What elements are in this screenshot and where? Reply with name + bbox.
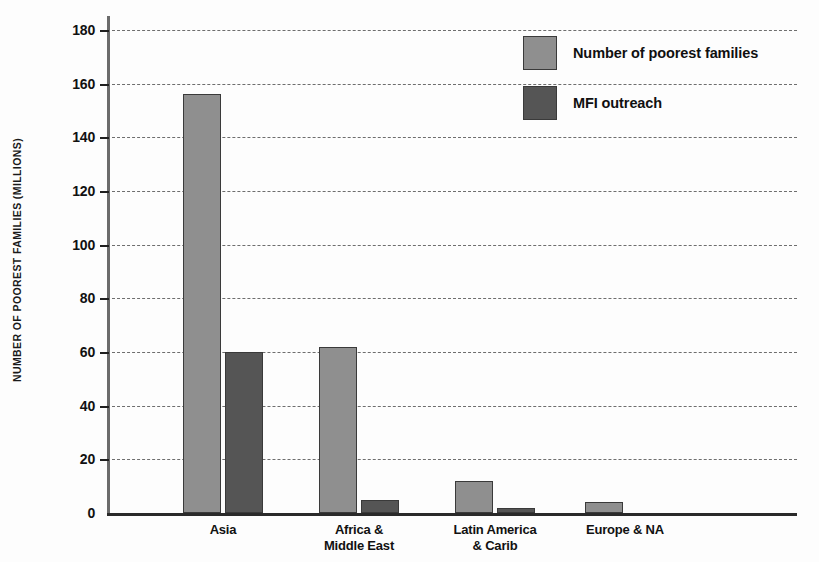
legend-label: Number of poorest families bbox=[573, 45, 758, 61]
y-tick-label: 20 bbox=[80, 451, 95, 467]
legend-item: Number of poorest families bbox=[523, 36, 758, 70]
y-tick-label: 100 bbox=[72, 237, 95, 253]
tick-mark bbox=[100, 406, 109, 408]
bar bbox=[455, 481, 493, 513]
bar bbox=[319, 347, 357, 513]
y-tick-label: 0 bbox=[87, 505, 95, 521]
bar bbox=[361, 500, 399, 513]
category-label-line: Europe & NA bbox=[545, 522, 705, 538]
tick-mark bbox=[100, 30, 109, 32]
y-tick-label: 160 bbox=[72, 76, 95, 92]
y-axis-title: NUMBER OF POOREST FAMILIES (MILLIONS) bbox=[0, 0, 34, 520]
legend-swatch bbox=[523, 36, 557, 70]
bar bbox=[225, 352, 263, 513]
bar bbox=[497, 508, 535, 513]
x-axis-line bbox=[107, 513, 797, 516]
tick-mark bbox=[100, 84, 109, 86]
tick-mark bbox=[100, 137, 109, 139]
y-tick-label: 120 bbox=[72, 183, 95, 199]
tick-mark bbox=[100, 298, 109, 300]
bar bbox=[585, 502, 623, 513]
y-axis-title-text: NUMBER OF POOREST FAMILIES (MILLIONS) bbox=[11, 138, 23, 382]
bar-chart: NUMBER OF POOREST FAMILIES (MILLIONS) 02… bbox=[0, 0, 819, 562]
y-tick-label: 180 bbox=[72, 22, 95, 38]
tick-mark bbox=[100, 245, 109, 247]
category-label: Europe & NA bbox=[545, 522, 705, 538]
legend-item: MFI outreach bbox=[523, 86, 758, 120]
gridline bbox=[107, 30, 797, 31]
tick-mark bbox=[100, 191, 109, 193]
y-tick-label: 40 bbox=[80, 398, 95, 414]
y-tick-label: 80 bbox=[80, 290, 95, 306]
bar bbox=[183, 94, 221, 513]
tick-mark bbox=[100, 352, 109, 354]
legend-label: MFI outreach bbox=[573, 95, 662, 111]
legend: Number of poorest familiesMFI outreach bbox=[523, 36, 758, 136]
y-tick-label: 60 bbox=[80, 344, 95, 360]
tick-mark bbox=[100, 459, 109, 461]
y-tick-label: 140 bbox=[72, 129, 95, 145]
y-axis-line bbox=[107, 16, 110, 513]
legend-swatch bbox=[523, 86, 557, 120]
category-label-line: & Carib bbox=[415, 538, 575, 554]
